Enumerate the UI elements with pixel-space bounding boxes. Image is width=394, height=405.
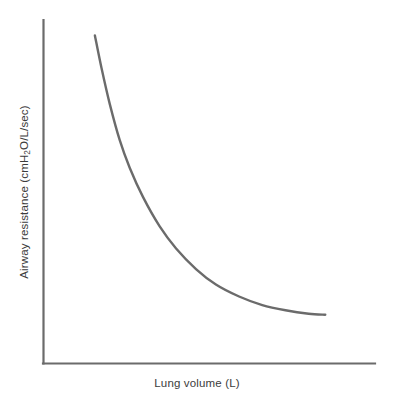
airway-resistance-line-chart: Lung volume (L) Airway resistance (cmH2O…	[0, 0, 394, 405]
chart-figure: Lung volume (L) Airway resistance (cmH2O…	[0, 0, 394, 405]
y-axis-label-suffix: O/L/sec)	[18, 105, 30, 150]
data-curve-airway-resistance	[95, 35, 325, 314]
y-axis-label: Airway resistance (cmH2O/L/sec)	[18, 105, 32, 278]
y-axis-label-prefix: Airway resistance (cmH	[18, 155, 30, 279]
x-axis-label: Lung volume (L)	[154, 377, 239, 389]
